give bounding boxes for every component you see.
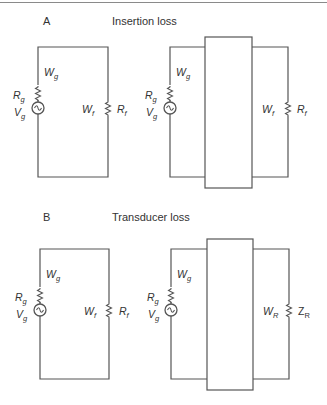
panel-a-letter: A [43, 15, 51, 27]
resistor-icon [168, 86, 173, 101]
circuit-diagram: A Insertion loss Wg Rg Vg Wf Rf Wg Rg Vg [0, 0, 327, 405]
panel-a-reference-circuit: Wg Rg Vg Wf Rf [13, 47, 128, 177]
label-vg: Vg [16, 308, 28, 323]
panel-a-network-circuit: Wg Rg Vg Wf Rf [145, 37, 308, 188]
label-wg: Wg [46, 268, 61, 283]
resistor-icon [169, 288, 174, 303]
two-port-network-box [207, 239, 253, 390]
ac-source-icon [34, 304, 46, 316]
panel-b-reference-circuit: Wg Rg Vg Wf Rf [15, 249, 130, 379]
label-rf: Rf [119, 305, 130, 320]
label-wf: Wf [82, 103, 95, 118]
ac-source-icon [164, 102, 176, 114]
label-wg: Wg [177, 268, 192, 283]
panel-b: B Transducer loss Wg Rg Vg Wf Rf Wg Rg V… [15, 211, 310, 390]
resistor-icon [107, 303, 112, 318]
resistor-icon [287, 303, 292, 318]
label-wr: WR [263, 305, 279, 320]
label-rg: Rg [147, 291, 160, 306]
label-wf: Wf [84, 305, 97, 320]
label-rg: Rg [145, 89, 158, 104]
panel-b-title: Transducer loss [112, 211, 190, 223]
resistor-icon [36, 86, 41, 101]
label-rf: Rf [117, 103, 128, 118]
resistor-icon [106, 101, 111, 116]
ac-source-icon [165, 304, 177, 316]
panel-b-letter: B [43, 211, 50, 223]
resistor-icon [286, 101, 291, 116]
resistor-icon [38, 288, 43, 303]
label-wg: Wg [176, 66, 191, 81]
label-rg: Rg [13, 89, 26, 104]
label-rf: Rf [297, 103, 308, 118]
panel-a-title: Insertion loss [112, 15, 177, 27]
panel-a: A Insertion loss Wg Rg Vg Wf Rf Wg Rg Vg [13, 15, 308, 188]
label-wg: Wg [44, 66, 59, 81]
label-rg: Rg [15, 291, 28, 306]
label-wf: Wf [262, 103, 275, 118]
ac-source-icon [32, 102, 44, 114]
label-vg: Vg [14, 106, 26, 121]
two-port-network-box [205, 37, 252, 188]
label-vg: Vg [146, 106, 158, 121]
label-zr: ZR [298, 305, 310, 320]
label-vg: Vg [148, 308, 160, 323]
panel-b-network-circuit: Wg Rg Vg WR ZR [147, 239, 310, 390]
